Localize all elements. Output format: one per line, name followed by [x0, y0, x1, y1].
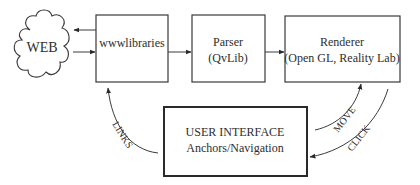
click-label: CLICK: [345, 122, 373, 153]
move-label: MOVE: [331, 104, 358, 134]
renderer-node: Renderer (Open GL, Reality Lab): [284, 16, 400, 82]
architecture-diagram: WEB wwwlibraries Parser (QvLib) Renderer…: [0, 0, 420, 185]
user-interface-node: USER INTERFACE Anchors/Navigation: [164, 107, 307, 176]
parser-node: Parser (QvLib): [192, 15, 265, 82]
links-label: LINKS: [110, 119, 135, 150]
wwwlibraries-label: wwwlibraries: [99, 36, 165, 50]
web-cloud-node: WEB: [14, 10, 69, 77]
parser-sublabel: (QvLib): [208, 51, 247, 65]
wwwlibraries-node: wwwlibraries: [96, 15, 168, 82]
renderer-sublabel: (Open GL, Reality Lab): [284, 51, 399, 65]
renderer-label: Renderer: [320, 35, 364, 49]
user-interface-sublabel: Anchors/Navigation: [186, 141, 283, 155]
parser-label: Parser: [213, 35, 243, 49]
web-label: WEB: [26, 40, 57, 55]
user-interface-label: USER INTERFACE: [186, 125, 285, 139]
